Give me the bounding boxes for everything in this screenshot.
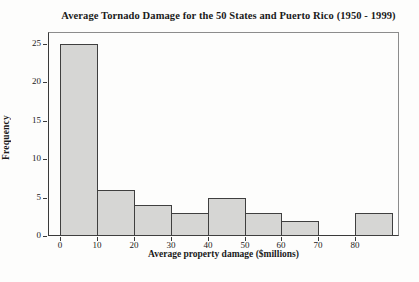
y-tick-label: 25 xyxy=(15,38,41,49)
y-tick-label: 5 xyxy=(15,192,41,203)
y-tick-label: 15 xyxy=(15,115,41,126)
y-tick xyxy=(43,236,47,237)
y-tick xyxy=(43,82,47,83)
histogram-bar xyxy=(245,213,282,236)
histogram-bar xyxy=(208,198,246,236)
histogram-bar xyxy=(60,44,98,236)
x-tick-label: 10 xyxy=(82,240,112,251)
y-tick xyxy=(43,44,47,45)
y-tick-label: 20 xyxy=(15,76,41,87)
y-tick xyxy=(43,198,47,199)
y-tick-label: 0 xyxy=(15,230,41,241)
histogram-bar xyxy=(134,205,172,236)
x-tick-label: 40 xyxy=(193,240,223,251)
histogram-bar xyxy=(97,190,135,236)
x-tick-label: 70 xyxy=(303,240,333,251)
x-tick-label: 30 xyxy=(156,240,186,251)
histogram-bar xyxy=(171,213,209,236)
x-tick-label: 20 xyxy=(119,240,149,251)
histogram-bar xyxy=(281,221,319,236)
x-tick-label: 50 xyxy=(230,240,260,251)
x-tick-label: 60 xyxy=(266,240,296,251)
histogram-figure: Average Tornado Damage for the 50 States… xyxy=(0,0,419,282)
x-tick-label: 80 xyxy=(340,240,370,251)
chart-title: Average Tornado Damage for the 50 States… xyxy=(40,9,417,22)
y-tick-label: 10 xyxy=(15,153,41,164)
y-tick xyxy=(43,121,47,122)
x-tick-label: 0 xyxy=(45,240,75,251)
y-tick xyxy=(43,159,47,160)
histogram-bar xyxy=(355,213,393,236)
y-axis-title: Frequency xyxy=(1,97,15,179)
